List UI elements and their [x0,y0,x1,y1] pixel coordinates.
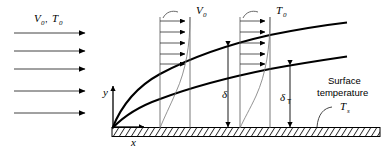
delta-t-label: δ [280,91,286,103]
plate-hatched-body [112,128,380,137]
temperature-profile-label: T [276,4,283,16]
surface-temperature-symbol: T [340,100,347,112]
freestream-label-comma: , [45,13,48,24]
y-axis-label: y [102,86,108,98]
surface-temperature-line1: Surface [328,75,361,86]
delta-t-label-subscript: T [287,98,292,105]
velocity-profile-label-subscript: 0 [203,11,207,19]
freestream-temperature-symbol: T [52,12,59,24]
surface-temperature-subscript: s [347,107,350,115]
temperature-profile-label-subscript: 0 [283,11,287,19]
flat-plate [112,128,380,137]
boundary-layer-diagram: V 0 , T 0 y x [0,0,391,152]
surface-temperature-line2: temperature [317,87,368,98]
freestream-temperature-subscript: 0 [59,19,63,27]
delta-label: δ [222,88,228,100]
x-axis-label: x [130,136,136,148]
